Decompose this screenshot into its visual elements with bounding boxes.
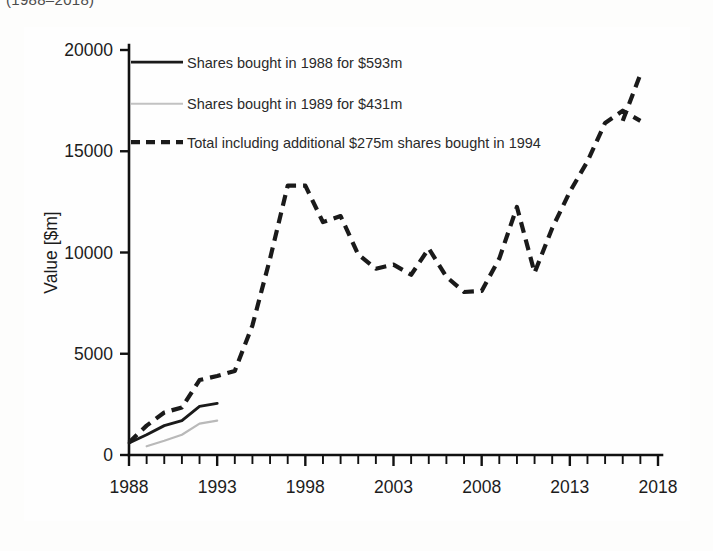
legend-label: Total including additional $275m shares … [187, 135, 541, 151]
x-axis-tick-labels: 1988199319982003200820132018 [110, 477, 678, 497]
figure-frame: 05000100001500020000 1988199319982003200… [24, 27, 690, 521]
series-line [129, 111, 640, 443]
figure-page: (1988–2018) 05000100001500020000 1988199… [0, 0, 713, 551]
x-tick-label: 1988 [110, 477, 149, 497]
x-tick-label: 2003 [374, 477, 413, 497]
legend-item: Shares bought in 1989 for $431m [131, 96, 402, 112]
series-line [147, 421, 218, 447]
y-tick-label: 5000 [74, 344, 113, 364]
chart-series-group [129, 74, 640, 446]
y-tick-label: 0 [103, 445, 113, 465]
y-axis-title: Value [$m] [41, 211, 61, 293]
y-tick-label: 20000 [64, 40, 113, 60]
y-axis-ticks [120, 50, 129, 455]
series-line-tail [623, 74, 641, 121]
value-over-time-line-chart: 05000100001500020000 1988199319982003200… [24, 27, 688, 519]
x-axis-ticks [129, 455, 658, 466]
y-tick-label: 15000 [64, 141, 113, 161]
x-tick-label: 1993 [198, 477, 237, 497]
caption-fragment: (1988–2018) [6, 0, 156, 9]
x-tick-label: 2008 [462, 477, 501, 497]
legend-item: Shares bought in 1988 for $593m [131, 55, 402, 71]
y-axis-tick-labels: 05000100001500020000 [64, 40, 113, 465]
legend-label: Shares bought in 1989 for $431m [187, 96, 402, 112]
x-tick-label: 1998 [286, 477, 325, 497]
x-tick-label: 2018 [639, 477, 678, 497]
legend-label: Shares bought in 1988 for $593m [187, 55, 402, 71]
x-tick-label: 2013 [550, 477, 589, 497]
y-tick-label: 10000 [64, 243, 113, 263]
legend-item: Total including additional $275m shares … [131, 135, 541, 151]
chart-legend: Shares bought in 1988 for $593mShares bo… [131, 55, 541, 151]
